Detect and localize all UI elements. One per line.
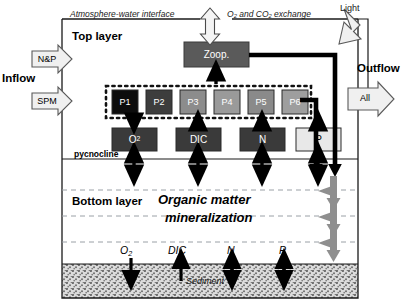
outflow-label: Outflow: [357, 63, 400, 75]
mineralization-label-line2: mineralization: [165, 211, 252, 224]
phytoplankton-label-p5: P5: [248, 90, 274, 114]
nutrient-label-p: P: [296, 128, 341, 151]
zooplankton-label: Zoop.: [184, 42, 249, 67]
inflow-arrow-spm-label: SPM: [32, 94, 62, 109]
outflow-arrow-label: All: [350, 91, 380, 106]
gas-exchange-suffix: exchange: [272, 9, 311, 19]
gas-exchange-and-co: and CO: [237, 9, 269, 19]
top-layer-label: Top layer: [72, 31, 122, 43]
atmosphere-interface-label: Atmosphere-water interface: [70, 10, 174, 19]
nutrient-label-o2-main: O: [129, 135, 137, 145]
light-label: Light: [340, 4, 360, 13]
nutrient-label-n: N: [240, 128, 285, 151]
sediment-flux-o2-sub: 2: [128, 250, 132, 258]
phytoplankton-label-p1: P1: [112, 90, 138, 114]
bottom-layer-label: Bottom layer: [72, 196, 142, 208]
sediment-flux-label-dic: DIC: [168, 245, 186, 256]
pycnocline-label: pycnocline: [74, 150, 118, 159]
sediment-label: Sediment: [186, 277, 224, 286]
phytoplankton-label-p6: P6: [282, 90, 308, 114]
outflow-routing-line: [358, 19, 368, 88]
nutrient-label-dic: DIC: [176, 128, 221, 151]
phytoplankton-label-p3: P3: [180, 90, 206, 114]
inflow-label: Inflow: [2, 73, 35, 85]
sediment-flux-label-n: N: [227, 245, 235, 256]
mineralization-label-line1: Organic matter: [158, 193, 250, 206]
inflow-arrow-np-label: N&P: [32, 52, 62, 67]
phytoplankton-label-p2: P2: [146, 90, 172, 114]
diagram-canvas: Atmosphere-water interface O2 and CO2 ex…: [0, 0, 408, 308]
sediment-flux-label-o2: O2: [120, 245, 132, 258]
gas-exchange-label: O2 and CO2 exchange: [227, 10, 311, 20]
gas-exchange-o2: O: [227, 9, 234, 19]
sediment-flux-label-p: P: [279, 245, 286, 256]
nutrient-label-o2-sub: 2: [137, 136, 141, 143]
phytoplankton-label-p4: P4: [214, 90, 240, 114]
nutrient-label-o2: O2: [112, 128, 157, 151]
sediment-flux-o2-main: O: [120, 244, 128, 256]
